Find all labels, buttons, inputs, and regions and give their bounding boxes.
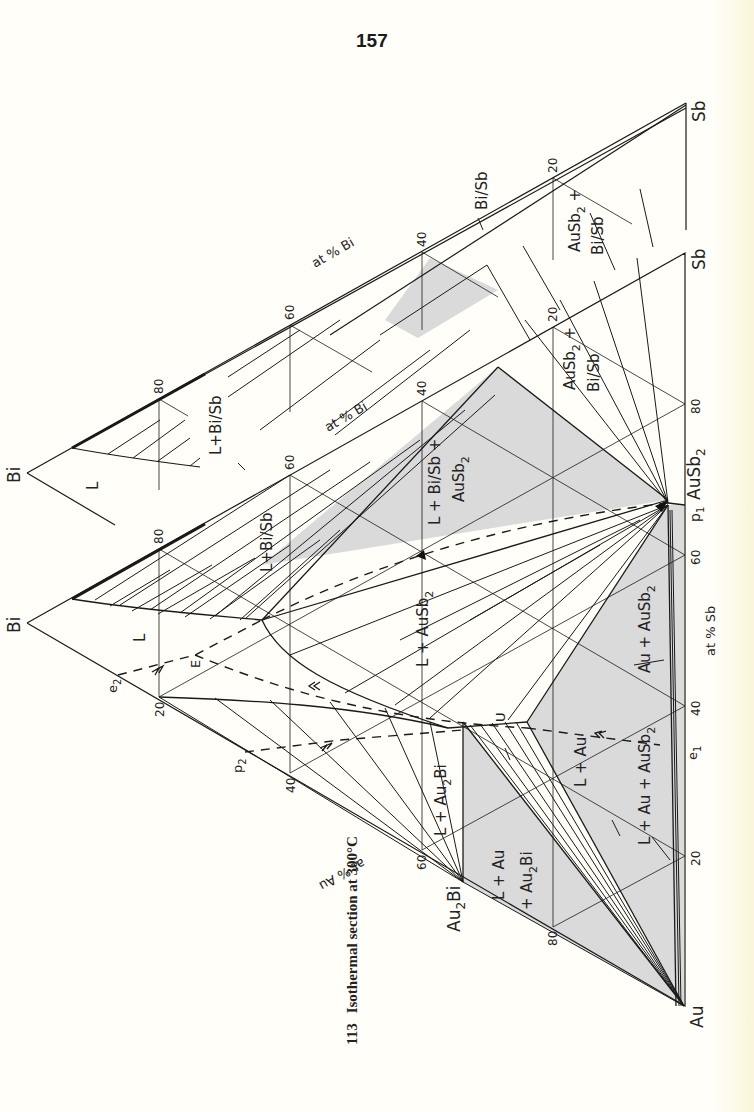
au-tick-60: 60 (415, 855, 429, 870)
bi-tick-20-inset: 20 (546, 158, 560, 173)
region-L-Au2Bi: L + Au2Bi (432, 764, 454, 836)
sb-tick-80: 80 (689, 399, 703, 414)
bi-tick-60-main: 60 (283, 455, 297, 470)
au-vertex-label: Au (687, 1006, 707, 1028)
region-AuSb2-BiSb-inset-line2: Bi/Sb (589, 216, 607, 255)
bi-tick-60-inset: 60 (283, 305, 297, 320)
sb-tick-60: 60 (689, 550, 703, 565)
region-L-BiSb-AuSb2-line1: L + Bi/Sb + (426, 439, 444, 525)
at-bi-axis-title-main: at % Bi (322, 398, 370, 434)
region-L-BiSb-main: L+Bi/Sb (258, 513, 276, 572)
bi-tick-20-main: 20 (546, 307, 560, 322)
at-bi-axis-title-inset: at % Bi (309, 234, 357, 270)
ternary-phase-diagram: Bi Bi Sb Sb Au Au2Bi AuSb2 p1 e2 p2 e1 E… (0, 0, 754, 1112)
bi-tick-80-inset: 80 (152, 379, 166, 394)
e1-label: e1 (685, 746, 703, 760)
region-L-main: L (131, 633, 149, 642)
sb-vertex-label-main: Sb (689, 248, 709, 270)
au-tick-20: 20 (153, 702, 167, 717)
bi-tick-80-main: 80 (152, 529, 166, 544)
book-page: 157 (0, 0, 754, 1112)
U-label: U (493, 712, 508, 722)
ausb2-vertex-label: AuSb2 (684, 448, 708, 500)
au2bi-vertex-label: Au2Bi (444, 886, 468, 932)
figure-number: 113 (344, 1023, 360, 1045)
bi-vertex-label-inset: Bi (4, 467, 24, 483)
region-AuSb2-BiSb-inset-line1: AuSb2 + (566, 189, 588, 252)
p1-label: p1 (687, 507, 706, 522)
e2-label: e2 (105, 679, 123, 693)
region-L-AuSb2: L + AuSb2 (414, 591, 436, 667)
page-edge-shading (714, 0, 754, 1112)
p2-label: p2 (230, 758, 248, 773)
au-tick-40: 40 (284, 778, 298, 793)
bi-tick-40-inset: 40 (415, 232, 429, 247)
figure-caption-text: Isothermal section at 300°C (344, 836, 360, 1013)
sb-tick-40: 40 (689, 701, 703, 716)
region-L-inset: L (84, 481, 102, 490)
sb-vertex-label-inset: Sb (689, 100, 709, 122)
bi-vertex-label-main: Bi (4, 617, 24, 633)
bisb-solid-label: Bi/Sb (473, 171, 491, 210)
region-AuSb2-BiSb-main-line2: Bi/Sb (585, 353, 603, 392)
region-L-Au: L + Au (572, 737, 590, 787)
figure-caption: 113Isothermal section at 300°C (344, 836, 361, 1045)
region-L-BiSb-inset: L+Bi/Sb (207, 396, 225, 455)
region-L-Au-Au2Bi-line1: L + Au (490, 850, 508, 900)
sb-tick-20: 20 (689, 851, 703, 866)
E-label: E (188, 660, 203, 668)
au-tick-80: 80 (546, 931, 560, 946)
bi-tick-40-main: 40 (415, 381, 429, 396)
